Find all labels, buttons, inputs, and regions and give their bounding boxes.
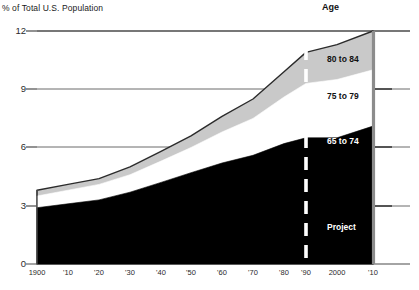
- population-age-share-chart: % of Total U.S. Population Age: [0, 0, 419, 290]
- x-tick-label-1960: '60: [205, 268, 239, 277]
- y-tick-label-3: 3: [4, 200, 26, 211]
- x-tick-label-1900: 1900: [20, 268, 54, 277]
- x-tick-label-1970: '70: [236, 268, 270, 277]
- y-tick-label-6: 6: [4, 141, 26, 152]
- x-tick-label-1990: '90: [289, 268, 323, 277]
- x-tick-label-1940: '40: [144, 268, 178, 277]
- x-tick-label-1950: '50: [174, 268, 208, 277]
- y-tick-label-12: 12: [4, 25, 26, 36]
- x-tick-label-2000: 2000: [320, 268, 354, 277]
- series-label-75-to-79: 75 to 79: [327, 91, 359, 101]
- y-tick-label-9: 9: [4, 83, 26, 94]
- y-axis-ticks: [26, 31, 37, 206]
- x-tick-label-1910: '10: [51, 268, 85, 277]
- x-tick-label-1920: '20: [82, 268, 116, 277]
- series-label-65-to-74: 65 to 74: [327, 136, 359, 146]
- projection-label: Project: [327, 222, 356, 232]
- x-tick-label-1930: '30: [113, 268, 147, 277]
- series-label-80-to-84: 80 to 84: [327, 54, 359, 64]
- right-axis-ticks: [375, 89, 392, 206]
- x-tick-label-2010: '10: [356, 268, 390, 277]
